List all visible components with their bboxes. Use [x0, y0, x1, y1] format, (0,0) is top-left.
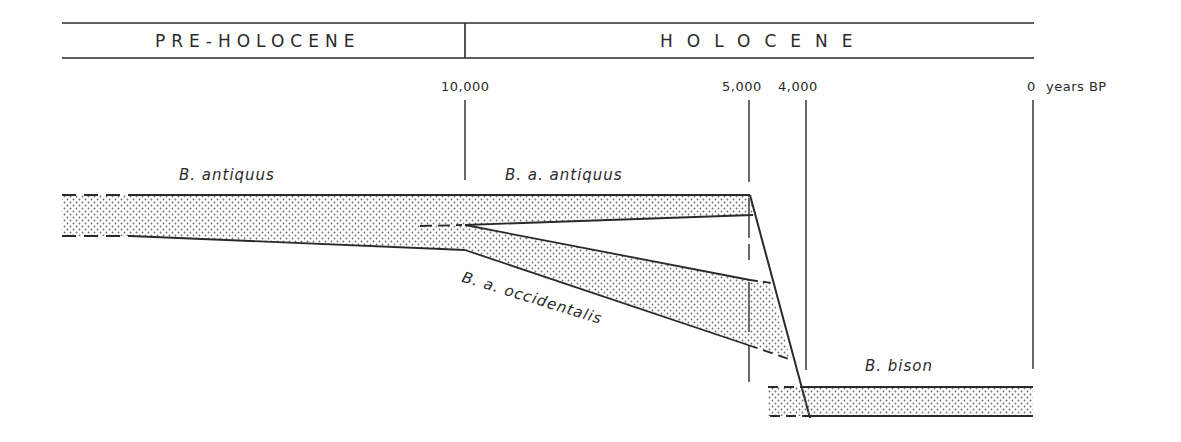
tick-0: 0	[1027, 79, 1036, 94]
taxon-b-bison: B. bison	[865, 357, 933, 375]
period-pre-holocene: PRE-HOLOCENE	[155, 31, 360, 51]
period-holocene: HOLOCENE	[660, 31, 866, 51]
taxon-b-a-antiquus: B. a. antiquus	[505, 166, 623, 184]
band-b-antiquus	[62, 195, 753, 250]
tick-4000: 4,000	[778, 79, 818, 94]
axis-unit: years BP	[1046, 79, 1107, 94]
phylogeny-diagram	[0, 0, 1181, 442]
tick-5000: 5,000	[722, 79, 762, 94]
band-b-bison	[768, 387, 1033, 416]
taxon-b-antiquus: B. antiquus	[179, 166, 275, 184]
tick-10000: 10,000	[441, 79, 490, 94]
